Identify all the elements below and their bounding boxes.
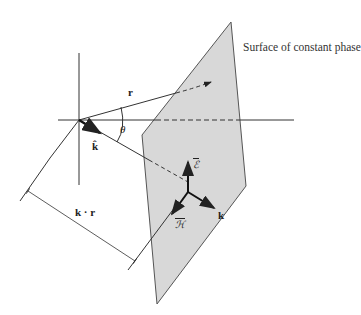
surface-caption: Surface of constant phase <box>243 41 361 53</box>
k-dot-r-dimension <box>28 191 135 261</box>
E-label: ℰ <box>193 159 199 170</box>
H-label: ℋ <box>175 219 185 230</box>
r-label: r <box>128 86 133 98</box>
theta-label: θ <box>120 123 125 135</box>
k-hat-vector <box>79 120 100 133</box>
k-dot-r-label: k · r <box>75 206 95 218</box>
k-hat-label: k̂ <box>92 140 98 152</box>
k-label: k <box>218 209 224 221</box>
